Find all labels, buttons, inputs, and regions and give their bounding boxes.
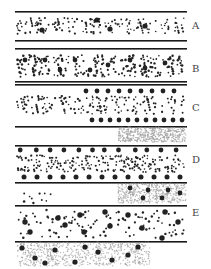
diagram-canvas <box>0 0 211 269</box>
panel-label-b: B <box>192 64 199 74</box>
particle-channel-diagram: A B C D E <box>0 0 211 269</box>
panel-label-a: A <box>192 21 199 31</box>
panel-label-c: C <box>192 103 200 113</box>
panel-label-d: D <box>192 155 200 165</box>
panel-label-e: E <box>192 208 199 218</box>
